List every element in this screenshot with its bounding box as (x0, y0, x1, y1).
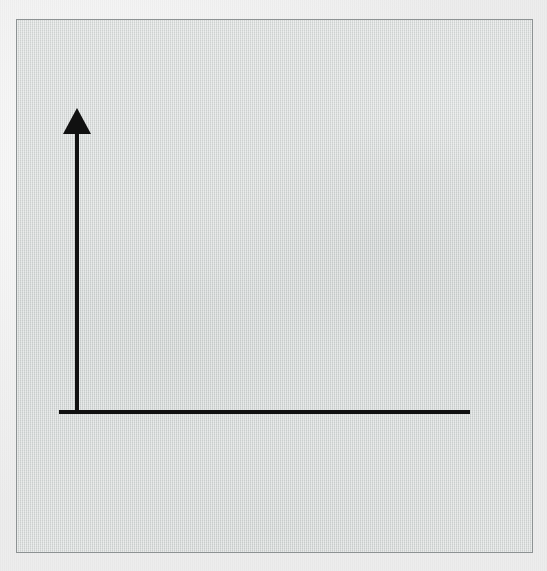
y-axis-arrowhead-icon (63, 108, 91, 134)
coordinate-axes-graphic (17, 20, 533, 553)
figure-root (0, 0, 547, 571)
axes-origin-joint (75, 410, 79, 414)
diagram-panel (16, 19, 533, 553)
